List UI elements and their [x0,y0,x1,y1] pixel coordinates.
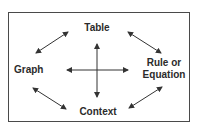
node-rule-line1: Rule or [136,57,192,69]
node-rule-or-equation: Rule or Equation [136,57,192,81]
node-rule-line2: Equation [136,69,192,81]
node-table: Table [82,22,112,34]
node-graph: Graph [14,64,48,76]
node-context: Context [76,106,120,118]
